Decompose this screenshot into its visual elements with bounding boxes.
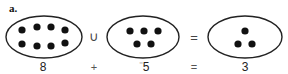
left-set <box>6 16 82 58</box>
dot <box>33 23 40 30</box>
term2-number: ⁻5 <box>139 60 150 74</box>
set-ellipse <box>107 16 179 58</box>
dot <box>126 27 133 34</box>
plus-operator: + <box>91 61 97 73</box>
dot <box>33 42 40 49</box>
term2-value: 5 <box>143 60 150 74</box>
right-set <box>208 16 282 58</box>
result-number: 3 <box>242 60 249 74</box>
set-ellipse <box>6 16 82 58</box>
dot <box>47 23 54 30</box>
dot <box>234 40 241 47</box>
union-symbol: ∪ <box>89 29 99 44</box>
dot <box>18 26 25 33</box>
middle-set <box>107 16 179 58</box>
equals-symbol: = <box>190 30 198 45</box>
dot <box>147 40 154 47</box>
equals-operator: = <box>191 61 197 73</box>
dot <box>154 27 161 34</box>
term1-number: 8 <box>40 60 47 74</box>
dot <box>47 42 54 49</box>
dot <box>140 27 147 34</box>
dot <box>248 40 255 47</box>
dot <box>61 26 68 33</box>
dot <box>241 27 248 34</box>
dot <box>18 40 25 47</box>
dot <box>133 40 140 47</box>
dot <box>61 39 68 46</box>
set-ellipse <box>208 16 282 58</box>
